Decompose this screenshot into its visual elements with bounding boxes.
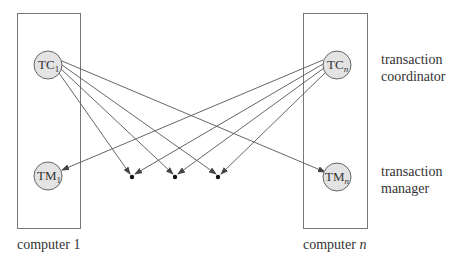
tc1-arrows [59,61,325,174]
node-tc1: TC1 [34,51,62,79]
computer-1-label: computer 1 [17,236,80,253]
site-dot-1 [130,175,134,179]
node-tmn: TMn [323,163,351,191]
node-tcn: TCn [323,51,351,79]
computer-n-box [304,14,368,229]
computer-n-label: computer n [303,236,366,253]
legend-transaction-coordinator: transaction coordinator [381,51,446,85]
site-dot-2 [173,175,177,179]
legend-transaction-manager: transaction manager [381,163,442,197]
computer-1-box [18,14,81,229]
site-dot-3 [216,175,220,179]
distributed-transaction-diagram: TC1 TM1 TCn TMn [0,0,464,266]
node-tm1: TM1 [34,162,62,190]
